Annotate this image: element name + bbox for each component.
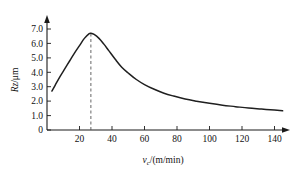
- x-tick-label: 140: [267, 134, 282, 144]
- x-tick-label: 100: [202, 134, 217, 144]
- y-tick-label: 6.0: [31, 39, 43, 49]
- line-chart-svg: 0 1.0 2.0 3.0 4.0 5.0 6.0 7.0 Rz/μm: [0, 0, 300, 175]
- y-tick-label: 0: [38, 125, 43, 135]
- y-tick-label: 3.0: [31, 82, 43, 92]
- x-axis-title-units: /(m/min): [150, 155, 184, 166]
- x-tick-label: 40: [107, 134, 117, 144]
- y-axis-title: Rz/μm: [10, 67, 20, 93]
- y-axis-title-units: /μm: [10, 67, 20, 83]
- y-tick-label: 2.0: [31, 96, 43, 106]
- y-tick-label: 7.0: [31, 24, 43, 34]
- x-tick-label: 60: [140, 134, 150, 144]
- y-tick-label: 5.0: [31, 53, 43, 63]
- chart-figure: 0 1.0 2.0 3.0 4.0 5.0 6.0 7.0 Rz/μm: [0, 0, 300, 175]
- y-axis-title-symbol: Rz: [10, 83, 20, 94]
- y-tick-label: 1.0: [31, 111, 43, 121]
- x-tick-label: 80: [172, 134, 182, 144]
- y-tick-label: 4.0: [31, 68, 43, 78]
- x-tick-label: 120: [235, 134, 250, 144]
- x-tick-label: 20: [75, 134, 85, 144]
